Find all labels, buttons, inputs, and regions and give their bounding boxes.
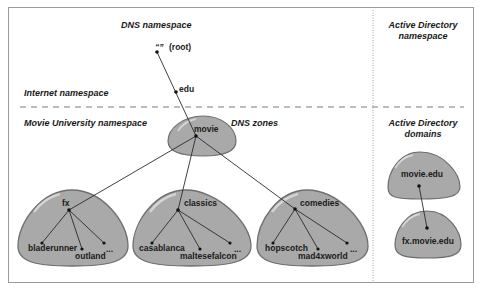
host-maltesefalcon-label: maltesefalcon: [180, 251, 237, 261]
heading-movie-university-namespace: Movie University namespace: [24, 118, 147, 128]
domain-fx-movie-edu-label: fx.movie.edu: [402, 236, 454, 246]
heading-ad-namespace-2: namespace: [398, 31, 447, 41]
heading-ad-domains-1: Active Directory: [387, 118, 458, 128]
root-quote-label: “”: [155, 42, 164, 52]
zone-fx-label: fx: [62, 198, 70, 208]
heading-ad-domains-2: domains: [404, 129, 441, 139]
heading-internet-namespace: Internet namespace: [24, 88, 109, 98]
classics-more-label: ...: [234, 244, 241, 254]
heading-ad-namespace-1: Active Directory: [387, 20, 458, 30]
dns-vs-active-directory-diagram: DNS namespace Active Directory namespace…: [0, 0, 481, 291]
heading-dns-zones: DNS zones: [231, 118, 278, 128]
host-bladerunner-label: bladerunner: [28, 243, 78, 253]
zone-comedies-label: comedies: [300, 198, 339, 208]
host-mad4xworld-label: mad4xworld: [298, 251, 348, 261]
host-outland-label: outland: [75, 251, 106, 261]
fx-more-label: ...: [106, 244, 113, 254]
domain-movie-edu-label: movie.edu: [401, 169, 443, 179]
root-label: (root): [169, 42, 191, 52]
movie-label: movie: [194, 124, 219, 134]
edu-label: edu: [179, 84, 194, 94]
zone-classics-label: classics: [184, 198, 217, 208]
comedies-more-label: ...: [350, 244, 357, 254]
host-casablanca-label: casablanca: [139, 243, 185, 253]
heading-dns-namespace: DNS namespace: [121, 20, 192, 30]
